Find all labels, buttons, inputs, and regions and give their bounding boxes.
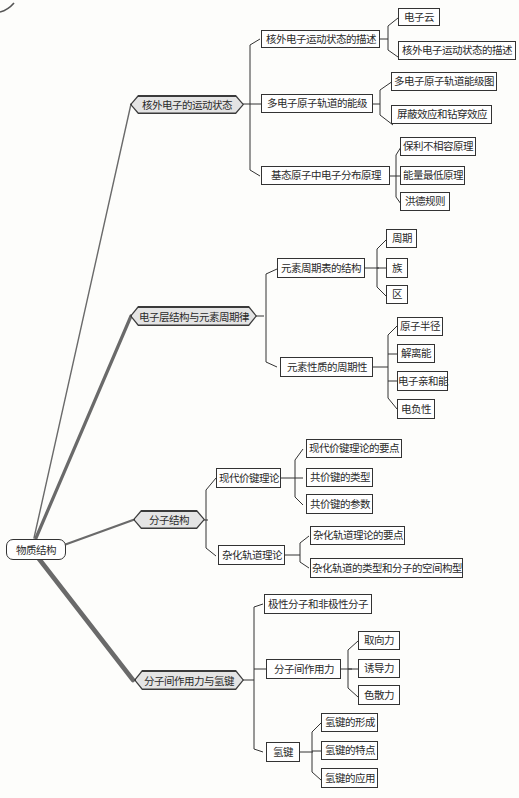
subtopic-node[interactable]: 极性分子和非极性分子	[264, 594, 372, 614]
subtopic-node[interactable]: 元素周期表的结构	[277, 258, 365, 278]
root-node[interactable]: 物质结构	[6, 539, 66, 560]
leaf-node[interactable]: 周期	[386, 229, 417, 248]
leaf-node[interactable]: 电负性	[397, 399, 435, 419]
subtopic-node[interactable]: 元素性质的周期性	[280, 357, 373, 377]
leaf-node[interactable]: 氢键的特点	[321, 741, 378, 760]
leaf-node[interactable]: 族	[386, 258, 408, 278]
subtopic-node[interactable]: 基态原子中电子分布原理	[261, 166, 390, 185]
leaf-node[interactable]: 电子亲和能	[397, 371, 448, 391]
leaf-node[interactable]: 共价键的参数	[306, 494, 373, 514]
leaf-node[interactable]: 原子半径	[397, 317, 443, 336]
subtopic-node[interactable]: 分子间作用力	[266, 659, 341, 679]
leaf-node[interactable]: 色散力	[358, 685, 400, 705]
leaf-node[interactable]: 共价键的类型	[306, 468, 373, 487]
subtopic-node[interactable]: 杂化轨道理论	[218, 545, 285, 565]
leaf-node[interactable]: 能量最低原理	[400, 166, 465, 185]
topic-label: 核外电子的运动状态	[132, 97, 243, 113]
subtopic-node[interactable]: 多电子原子轨道的能级	[261, 94, 373, 113]
leaf-node[interactable]: 杂化轨道的类型和分子的空间构型	[310, 558, 463, 578]
subtopic-node[interactable]: 核外电子运动状态的描述	[261, 30, 380, 48]
topic-label: 分子结构	[135, 512, 204, 528]
root-label: 物质结构	[16, 542, 56, 557]
topic-label: 电子层结构与元素周期律	[132, 308, 256, 325]
leaf-node[interactable]: 区	[386, 285, 408, 304]
leaf-node[interactable]: 洪德规则	[400, 192, 450, 211]
leaf-node[interactable]: 保利不相容原理	[400, 137, 476, 156]
topic-node[interactable]: 电子层结构与元素周期律	[130, 306, 257, 326]
topic-label: 分子间作用力与氢键	[136, 672, 243, 689]
leaf-node[interactable]: 核外电子运动状态的描述	[398, 41, 516, 60]
topic-node[interactable]: 核外电子的运动状态	[130, 95, 244, 114]
leaf-node[interactable]: 电子云	[398, 8, 440, 26]
leaf-node[interactable]: 取向力	[358, 631, 400, 650]
leaf-node[interactable]: 诱导力	[358, 659, 400, 678]
leaf-node[interactable]: 屏蔽效应和钻穿效应	[391, 105, 492, 124]
leaf-node[interactable]: 多电子原子轨道能级图	[391, 72, 497, 91]
leaf-node[interactable]: 现代价键理论的要点	[306, 439, 402, 458]
leaf-node[interactable]: 氢键的形成	[321, 713, 378, 732]
topic-node[interactable]: 分子间作用力与氢键	[134, 670, 244, 690]
leaf-node[interactable]: 杂化轨道理论的要点	[310, 526, 405, 545]
leaf-node[interactable]: 氢键的应用	[321, 768, 378, 788]
topic-node[interactable]: 分子结构	[133, 510, 205, 529]
subtopic-node[interactable]: 氢键	[266, 742, 300, 762]
subtopic-node[interactable]: 现代价键理论	[216, 468, 281, 488]
leaf-node[interactable]: 解离能	[397, 344, 435, 363]
